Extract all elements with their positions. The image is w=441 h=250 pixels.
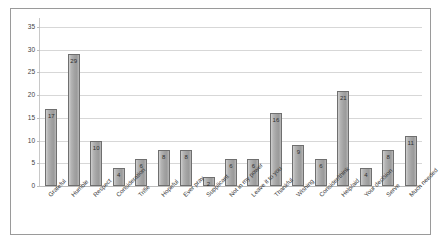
bar-slot: 2 bbox=[197, 18, 219, 186]
x-axis: GratefulHumbleRespectConsiderationTrifle… bbox=[39, 187, 422, 235]
x-axis-tick: Serve bbox=[377, 187, 400, 235]
bar-value-label: 21 bbox=[340, 95, 347, 101]
bar[interactable]: 6 bbox=[225, 159, 237, 186]
x-axis-tick: Thankful bbox=[264, 187, 287, 235]
bar-value-label: 8 bbox=[184, 154, 187, 160]
y-axis-tick-label: 20 bbox=[28, 92, 35, 99]
bar-slot: 4 bbox=[107, 18, 129, 186]
bar-value-label: 4 bbox=[117, 172, 120, 178]
x-axis-tick: Wishing bbox=[287, 187, 310, 235]
bar[interactable]: 4 bbox=[360, 168, 372, 186]
bar-slot: 29 bbox=[62, 18, 84, 186]
bar-slot: 8 bbox=[175, 18, 197, 186]
x-axis-tick: Humble bbox=[62, 187, 85, 235]
bar-value-label: 6 bbox=[319, 163, 322, 169]
x-axis-tick: Ever pray bbox=[174, 187, 197, 235]
y-axis-tick-label: 10 bbox=[28, 137, 35, 144]
bar-slot: 10 bbox=[85, 18, 107, 186]
x-axis-tick: Leave it to you bbox=[242, 187, 265, 235]
bar-slot: 8 bbox=[377, 18, 399, 186]
x-axis-tick: Grateful bbox=[39, 187, 62, 235]
bar-value-label: 16 bbox=[273, 117, 280, 123]
bar-slot: 6 bbox=[130, 18, 152, 186]
bar-slot: 16 bbox=[265, 18, 287, 186]
bar-slot: 17 bbox=[40, 18, 62, 186]
bar-value-label: 17 bbox=[48, 113, 55, 119]
x-axis-tick: Supplicant bbox=[197, 187, 220, 235]
chart-plot-wrapper: 05101520253035 17291046882661696214811 G… bbox=[11, 9, 430, 234]
bar[interactable]: 11 bbox=[405, 136, 417, 186]
bar[interactable]: 9 bbox=[292, 145, 304, 186]
x-axis-tick: Consider/think bbox=[309, 187, 332, 235]
x-axis-tick: Respect bbox=[84, 187, 107, 235]
bar-slot: 21 bbox=[332, 18, 354, 186]
bar-value-label: 8 bbox=[162, 154, 165, 160]
bar-value-label: 11 bbox=[408, 140, 414, 146]
bar[interactable]: 17 bbox=[45, 109, 57, 186]
x-axis-tick: Trifle bbox=[129, 187, 152, 235]
bar-slot: 4 bbox=[355, 18, 377, 186]
bar[interactable]: 8 bbox=[180, 150, 192, 186]
x-axis-tick: Your decision bbox=[354, 187, 377, 235]
plot-area: 17291046882661696214811 bbox=[39, 18, 422, 186]
bar-value-label: 6 bbox=[229, 163, 232, 169]
bar[interactable]: 29 bbox=[68, 54, 80, 186]
bar[interactable]: 8 bbox=[158, 150, 170, 186]
x-axis-tick: Hopeful bbox=[152, 187, 175, 235]
x-axis-tick-label: Trifle bbox=[138, 184, 152, 198]
x-axis-tick: Consideration bbox=[107, 187, 130, 235]
bar-value-label: 10 bbox=[93, 145, 100, 151]
bar-slot: 6 bbox=[242, 18, 264, 186]
bar-slot: 6 bbox=[220, 18, 242, 186]
x-axis-tick: Not in my power bbox=[219, 187, 242, 235]
y-axis-tick-label: 15 bbox=[28, 115, 35, 122]
y-axis-tick-label: 0 bbox=[31, 183, 35, 190]
bar-slot: 11 bbox=[400, 18, 422, 186]
y-axis-tick-label: 25 bbox=[28, 69, 35, 76]
y-axis-tick-label: 30 bbox=[28, 47, 35, 54]
chart-frame: 05101520253035 17291046882661696214811 G… bbox=[10, 8, 431, 235]
bar-slot: 6 bbox=[310, 18, 332, 186]
bar-slot: 9 bbox=[287, 18, 309, 186]
bar-value-label: 9 bbox=[297, 149, 300, 155]
x-axis-tick: Much needed bbox=[400, 187, 423, 235]
bar-slot: 8 bbox=[152, 18, 174, 186]
x-axis-tick: Help/aid bbox=[332, 187, 355, 235]
y-axis-tick-label: 5 bbox=[31, 160, 35, 167]
bar-value-label: 4 bbox=[364, 172, 367, 178]
y-axis-tick-label: 35 bbox=[28, 24, 35, 31]
bar-value-label: 8 bbox=[387, 154, 390, 160]
bar[interactable]: 6 bbox=[315, 159, 327, 186]
bar[interactable]: 10 bbox=[90, 141, 102, 186]
bar-value-label: 29 bbox=[70, 58, 77, 64]
y-axis: 05101520253035 bbox=[11, 18, 37, 186]
bar-series: 17291046882661696214811 bbox=[40, 18, 422, 186]
